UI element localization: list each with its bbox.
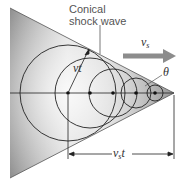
source-velocity-label: vs (141, 36, 149, 52)
shock-wave-label: Conical shock wave (69, 3, 126, 27)
wave-radius-label: vt (73, 62, 82, 74)
shock-wave-diagram (0, 0, 185, 182)
angle-label: θ (163, 66, 169, 78)
source-velocity-arrow (123, 49, 176, 63)
distance-label: vst (113, 147, 125, 163)
